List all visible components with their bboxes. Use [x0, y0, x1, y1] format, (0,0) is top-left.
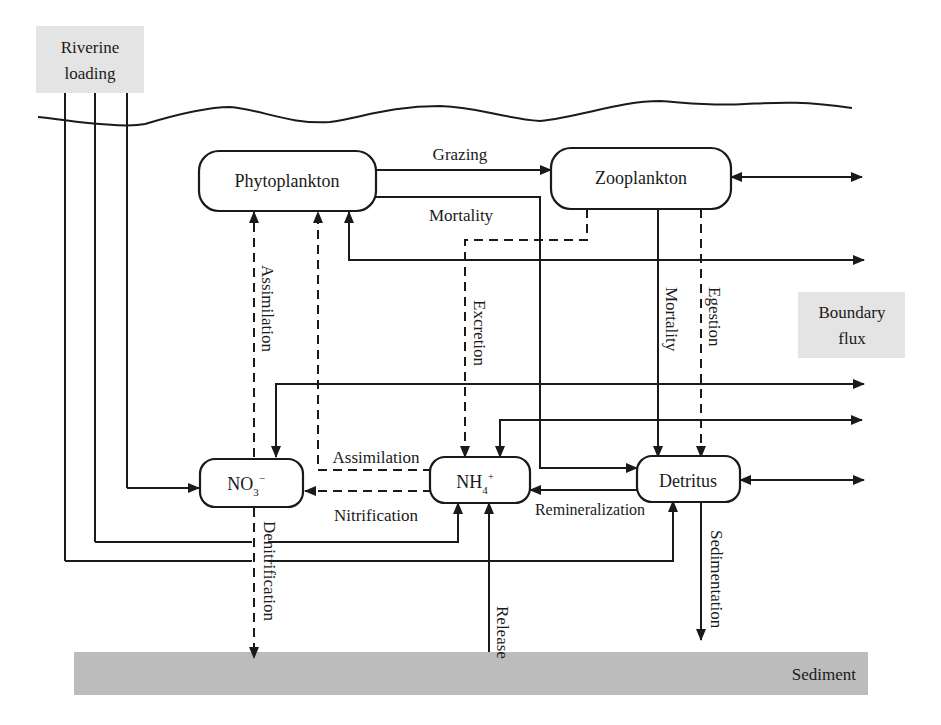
boundary-label-line1: Boundary: [818, 303, 886, 322]
egestion-label: Egestion: [705, 287, 724, 347]
assimilation-vertical-label: Assimilation: [258, 265, 277, 352]
zooplankton-label: Zooplankton: [595, 168, 687, 188]
excretion-label: Excretion: [470, 300, 489, 367]
nitrification-label: Nitrification: [334, 506, 419, 525]
phytoplankton-node: Phytoplankton: [199, 151, 376, 211]
riverine-label-line2: loading: [65, 64, 116, 83]
release-label: Release: [493, 606, 512, 659]
riverine-label-line1: Riverine: [61, 38, 120, 57]
nh4-subscript: 4: [482, 484, 488, 496]
nh4-base: NH: [456, 472, 482, 492]
detritus-node: Detritus: [637, 456, 740, 502]
sediment-layer: [74, 652, 868, 695]
phyto-boundary-flux-arrow: [349, 212, 864, 260]
no3-subscript: 3: [253, 486, 259, 498]
sediment-label: Sediment: [792, 665, 856, 684]
no3-node: NO3−: [200, 459, 303, 507]
boundary-flux-box: [798, 292, 905, 358]
phytoplankton-label: Phytoplankton: [234, 171, 339, 191]
phyto-mortality-label: Mortality: [429, 206, 494, 225]
nh4-boundary-flux-arrow: [500, 420, 862, 457]
denitrification-label: Denitrification: [260, 521, 279, 622]
nh4-node: NH4+: [430, 457, 530, 503]
no3-superscript: −: [259, 472, 265, 484]
nh4-assimilation-arrow: [318, 212, 432, 470]
assimilation-horizontal-label: Assimilation: [333, 448, 420, 467]
nitrogen-cycle-diagram: Riverine loading Boundary flux Sediment …: [0, 0, 941, 725]
remineralization-label: Remineralization: [535, 501, 645, 518]
grazing-label: Grazing: [433, 145, 488, 164]
boundary-label-line2: flux: [838, 329, 866, 348]
sedimentation-label: Sedimentation: [707, 530, 726, 629]
zoo-mortality-label: Mortality: [662, 287, 681, 352]
zooplankton-node: Zooplankton: [551, 148, 731, 209]
phyto-mortality-arrow: [376, 197, 637, 468]
no3-base: NO: [227, 474, 253, 494]
detritus-label: Detritus: [659, 471, 717, 491]
water-surface-line-end: [745, 103, 852, 108]
water-surface-line: [38, 101, 745, 126]
nh4-superscript: +: [488, 470, 494, 482]
